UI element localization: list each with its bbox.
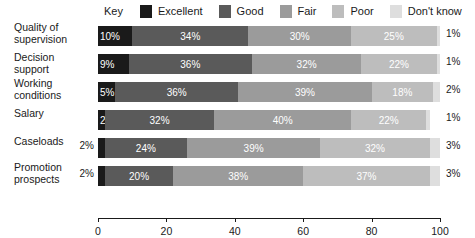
bar-segment[interactable] (433, 82, 440, 102)
bar-segment[interactable] (426, 110, 429, 130)
chart-row: Salary2%32%40%22%1% (0, 108, 475, 136)
stacked-bar: 20%38%37% (98, 166, 440, 186)
bar-segment-label: 24% (136, 143, 156, 154)
axis-tick-mark (372, 218, 373, 222)
bar-segment[interactable]: 40% (214, 110, 351, 130)
bar-segment[interactable]: 37% (303, 166, 430, 186)
chart-row: Decision support9%36%32%22%1% (0, 52, 475, 80)
legend-item-excellent[interactable]: Excellent (140, 5, 203, 18)
bar-segment-label: 39% (295, 87, 315, 98)
bar-segment[interactable]: 32% (320, 138, 429, 158)
category-label: Quality ofsupervision (14, 22, 90, 45)
bar-segment-label: 36% (180, 59, 200, 70)
bar-segment-label: 25% (384, 31, 404, 42)
stacked-bar: 9%36%32%22% (98, 54, 440, 74)
legend-item-good[interactable]: Good (219, 5, 264, 18)
bar-segment[interactable] (437, 26, 440, 46)
bar-segment-label: 38% (228, 171, 248, 182)
legend-item-fair[interactable]: Fair (280, 5, 317, 18)
bar-segment[interactable]: 2% (98, 110, 105, 130)
axis-tick-label: 40 (229, 225, 241, 237)
outside-right-value: 1% (446, 56, 460, 67)
outside-left-value: 2% (66, 168, 94, 179)
category-label: Salary (14, 108, 90, 120)
outside-right-value: 1% (446, 112, 460, 123)
legend-item-label: Don't know (408, 5, 462, 17)
bar-segment[interactable] (430, 166, 440, 186)
bar-segment[interactable]: 36% (129, 54, 252, 74)
legend-item-don-t-know[interactable]: Don't know (390, 5, 462, 18)
axis-tick-label: 60 (297, 225, 309, 237)
bar-segment[interactable]: 32% (105, 110, 214, 130)
bar-segment[interactable] (437, 54, 440, 74)
bar-segment[interactable]: 30% (248, 26, 351, 46)
bar-segment-label: 9% (100, 59, 114, 70)
outside-right-value: 3% (446, 168, 460, 179)
bar-segment[interactable]: 39% (238, 82, 371, 102)
bar-segment[interactable]: 34% (132, 26, 248, 46)
bar-segment[interactable]: 5% (98, 82, 115, 102)
bar-segment[interactable] (430, 138, 440, 158)
stacked-bar: 24%39%32% (98, 138, 440, 158)
bar-segment-label: 22% (379, 115, 399, 126)
bar-segment-label: 18% (392, 87, 412, 98)
legend-item-label: Good (237, 5, 264, 17)
legend-item-list: ExcellentGoodFairPoorDon't know (140, 5, 475, 18)
x-axis: 020406080100 (98, 218, 443, 238)
bar-segment[interactable]: 36% (115, 82, 238, 102)
bar-segment-label: 30% (290, 31, 310, 42)
bar-segment[interactable]: 22% (351, 110, 426, 130)
chart-row: Caseloads2%24%39%32%3% (0, 136, 475, 164)
axis-tick-mark (303, 218, 304, 222)
legend-item-label: Excellent (158, 5, 203, 17)
bar-segment[interactable] (98, 138, 105, 158)
category-label-line1: Decision support (14, 52, 90, 75)
bar-segment[interactable]: 32% (252, 54, 361, 74)
outside-right-value: 1% (446, 28, 460, 39)
bar-segment-label: 39% (244, 143, 264, 154)
category-label-line1: Working (14, 78, 90, 90)
chart-row: Workingconditions5%36%39%18%2% (0, 80, 475, 108)
bar-segment-label: 22% (389, 59, 409, 70)
bar-segment[interactable]: 20% (105, 166, 173, 186)
stacked-bar: 2%32%40%22% (98, 110, 440, 130)
bar-segment-label: 20% (129, 171, 149, 182)
axis-tick-label: 0 (95, 225, 101, 237)
bar-segment-label: 40% (273, 115, 293, 126)
category-label: Workingconditions (14, 78, 90, 101)
stacked-bar: 10%34%30%25% (98, 26, 440, 46)
axis-tick-label: 20 (161, 225, 173, 237)
bar-segment[interactable]: 9% (98, 54, 129, 74)
bar-segment[interactable]: 38% (173, 166, 303, 186)
outside-left-value: 2% (66, 140, 94, 151)
bar-segment[interactable]: 10% (98, 26, 132, 46)
bar-segment-label: 5% (100, 87, 114, 98)
category-label: Decision support (14, 52, 90, 75)
legend-item-label: Poor (350, 5, 373, 17)
legend-swatch-icon (219, 5, 231, 18)
chart-row: Quality ofsupervision10%34%30%25%1% (0, 24, 475, 52)
bar-segment[interactable] (98, 166, 105, 186)
category-label-line2: conditions (14, 90, 90, 102)
category-label-line2: supervision (14, 34, 90, 46)
bar-segment-label: 32% (297, 59, 317, 70)
legend-item-poor[interactable]: Poor (332, 5, 373, 18)
category-label-line1: Quality of (14, 22, 90, 34)
legend-swatch-icon (390, 5, 402, 18)
bar-segment[interactable]: 22% (361, 54, 436, 74)
axis-tick-label: 80 (366, 225, 378, 237)
bar-segment[interactable]: 39% (187, 138, 320, 158)
axis-tick-mark (166, 218, 167, 222)
legend-item-label: Fair (298, 5, 317, 17)
axis-tick-mark (235, 218, 236, 222)
outside-right-value: 3% (446, 140, 460, 151)
chart-row: Promotionprospects2%20%38%37%3% (0, 164, 475, 192)
bar-segment[interactable]: 24% (105, 138, 187, 158)
bar-segment[interactable]: 18% (372, 82, 434, 102)
bar-segment-label: 32% (365, 143, 385, 154)
legend-key-label: Key (104, 5, 123, 17)
bar-segment-label: 37% (356, 171, 376, 182)
bar-segment[interactable]: 25% (351, 26, 437, 46)
bar-segment-label: 34% (180, 31, 200, 42)
outside-right-value: 2% (446, 84, 460, 95)
